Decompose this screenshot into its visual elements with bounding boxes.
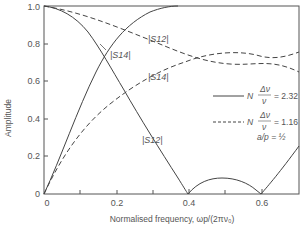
plot-frame [44,6,299,194]
y-tick-label: 0.6 [27,76,40,86]
x-axis-title: Normalised frequency, ωp/(2πν₀) [110,214,235,224]
legend-annotation: a/p = ½ [257,132,286,142]
curve-label-s14: |S14| [148,72,169,82]
y-axis [44,44,48,156]
label-leader [100,44,106,50]
y-tick-label: 1.0 [27,2,40,12]
x-tick-label: 0 [44,198,49,208]
legend-prefix: N [247,117,254,127]
y-tick-label: 0 [35,189,40,199]
x-tick-label: 0.2 [111,198,124,208]
legend: N Δν ν = 2.32 N Δν ν = 1.16 a/p = ½ [213,84,298,142]
x-tick-labels: 0 0.2 0.4 0.6 [44,198,268,208]
legend-frac-num: Δν [259,110,271,120]
y-axis-title: Amplitude [3,99,13,137]
y-tick-label: 0.8 [27,39,40,49]
x-axis [80,189,262,194]
series-s12-dashed [44,6,299,72]
series-s12-solid [44,6,299,194]
legend-value: = 2.32 [274,91,298,101]
curve-label-s14: |S14| [110,50,131,60]
curve-label-s12: |S12| [142,135,163,145]
x-tick-label: 0.4 [183,198,196,208]
legend-frac-den: ν [262,96,267,106]
series-s14-dashed [44,52,299,194]
y-tick-label: 0.2 [27,151,40,161]
legend-frac-num: Δν [259,84,271,94]
curve-label-s12: |S12| [148,34,169,44]
x-tick-label: 0.6 [256,198,269,208]
legend-prefix: N [247,91,254,101]
y-tick-labels: 0 0.2 0.4 0.6 0.8 1.0 [27,2,40,199]
y-tick-label: 0.4 [27,114,40,124]
legend-frac-den: ν [262,122,267,132]
amplitude-chart: 0 0.2 0.4 0.6 0.8 1.0 0 0.2 0.4 0.6 Norm… [0,0,308,231]
legend-value: = 1.16 [274,117,298,127]
